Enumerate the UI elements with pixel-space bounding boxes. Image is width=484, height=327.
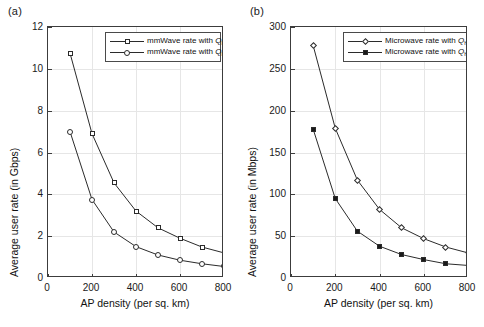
x-tick-label: 800 (459, 282, 476, 293)
data-point-marker-filled-square (363, 50, 368, 55)
legend-marker-sample (348, 36, 382, 47)
data-point-marker-filled-square (466, 263, 468, 268)
data-point-marker-filled-square (333, 196, 338, 201)
figure-two-panel-line-charts: (a) mmWave rate with Qh = 20mmWave rate … (0, 0, 484, 327)
plot-area-a: mmWave rate with Qh = 20mmWave rate with… (47, 26, 223, 277)
data-point-marker-open-circle (133, 244, 139, 250)
data-point-marker-open-square (222, 250, 224, 255)
legend-marker-sample (348, 47, 382, 58)
y-tick-label: 2 (17, 230, 43, 241)
data-point-marker-open-diamond (361, 38, 368, 45)
legend: Microwave rate with Qh = 20Microwave rat… (343, 32, 467, 62)
data-point-marker-open-square (112, 180, 117, 185)
data-point-marker-open-circle (155, 252, 161, 258)
y-tick-label: 12 (17, 21, 43, 32)
x-tick-label: 0 (287, 282, 293, 293)
data-point-marker-open-square (68, 51, 73, 56)
y-tick-label: 6 (17, 146, 43, 157)
data-point-marker-filled-square (311, 127, 316, 132)
legend-label: mmWave rate with Qh = 10 (147, 46, 223, 60)
data-point-marker-filled-square (399, 252, 404, 257)
data-point-marker-filled-square (377, 244, 382, 249)
plot-frame: Microwave rate with Qh = 20Microwave rat… (290, 26, 467, 277)
data-point-marker-open-square (178, 236, 183, 241)
data-point-marker-open-square (200, 245, 205, 250)
legend-marker-sample (110, 47, 144, 58)
y-axis-title: Average user rate (in Mbps) (246, 147, 258, 277)
y-tick-label: 50 (260, 230, 286, 241)
legend-label: Microwave rate with Qh = 10 (385, 46, 467, 60)
legend-item[interactable]: Microwave rate with Qh = 10 (348, 47, 462, 58)
data-point-marker-filled-square (355, 229, 360, 234)
x-axis-title: AP density (per sq. km) (290, 297, 467, 309)
x-tick-label: 400 (127, 282, 144, 293)
y-tick-label: 0 (17, 272, 43, 283)
data-point-marker-open-square (156, 225, 161, 230)
y-tick-label: 8 (17, 104, 43, 115)
data-point-marker-open-square (134, 209, 139, 214)
x-tick-label: 200 (326, 282, 343, 293)
data-point-marker-open-circle (124, 50, 130, 56)
panel-a-tag: (a) (8, 5, 22, 17)
legend: mmWave rate with Qh = 20mmWave rate with… (105, 32, 221, 62)
data-point-marker-open-circle (111, 229, 117, 235)
legend-marker-sample (110, 36, 144, 47)
series-lines (48, 27, 223, 277)
x-tick-label: 200 (83, 282, 100, 293)
y-tick-label: 100 (260, 188, 286, 199)
x-tick-label: 400 (370, 282, 387, 293)
x-tick-label: 800 (215, 282, 232, 293)
x-tick-label: 600 (171, 282, 188, 293)
plot-area-b: Microwave rate with Qh = 20Microwave rat… (290, 26, 467, 277)
x-axis-title: AP density (per sq. km) (47, 297, 223, 309)
y-tick-label: 200 (260, 104, 286, 115)
y-tick-label: 4 (17, 188, 43, 199)
plot-frame: mmWave rate with Qh = 20mmWave rate with… (47, 26, 223, 277)
data-point-marker-open-circle (89, 197, 95, 203)
x-tick-label: 600 (414, 282, 431, 293)
y-tick-label: 10 (17, 62, 43, 73)
legend-item[interactable]: mmWave rate with Qh = 10 (110, 47, 216, 58)
y-tick-label: 0 (260, 272, 286, 283)
y-axis-title: Average user rate (in Gbps) (8, 148, 20, 277)
y-tick-label: 300 (260, 21, 286, 32)
panel-a: (a) mmWave rate with Qh = 20mmWave rate … (0, 0, 242, 327)
panel-b-tag: (b) (250, 5, 264, 17)
data-point-marker-filled-square (443, 261, 448, 266)
data-point-marker-filled-square (421, 257, 426, 262)
data-point-marker-open-circle (67, 129, 73, 135)
x-tick-label: 0 (44, 282, 50, 293)
data-point-marker-open-circle (199, 261, 205, 267)
data-point-marker-open-square (125, 39, 130, 44)
y-tick-label: 150 (260, 146, 286, 157)
y-tick-label: 250 (260, 62, 286, 73)
data-point-marker-open-square (90, 131, 95, 136)
series-lines (291, 27, 467, 277)
panel-b: (b) Microwave rate with Qh = 20Microwave… (242, 0, 484, 327)
